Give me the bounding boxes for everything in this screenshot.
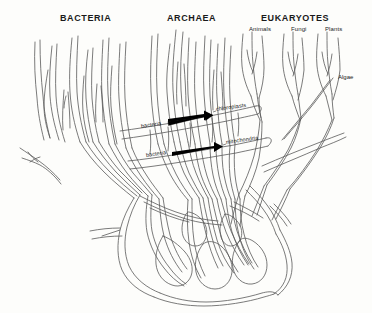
group-label-plants: Plants (325, 26, 342, 32)
tree-drawing-canvas (0, 0, 372, 313)
group-label-fungi: Fungi (291, 26, 307, 32)
endosymbiosis-arrows (168, 111, 223, 157)
group-label-animals: Animals (249, 26, 271, 32)
domain-label-eukaryotes: EUKARYOTES (261, 14, 329, 23)
group-label-algae: Algae (338, 74, 353, 80)
mitochondria-arrow (172, 142, 223, 156)
tree-branches (20, 30, 346, 306)
domain-label-archaea: ARCHAEA (167, 14, 216, 23)
phylogenetic-tree-figure: BACTERIA ARCHAEA EUKARYOTES Animals Fung… (0, 0, 372, 313)
domain-label-bacteria: BACTERIA (60, 14, 111, 23)
